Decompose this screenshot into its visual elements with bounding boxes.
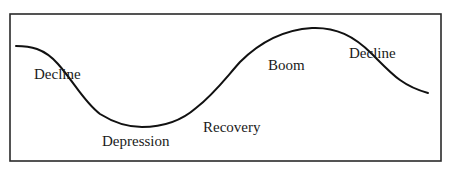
diagram-frame <box>10 14 441 161</box>
label-decline-left: Decline <box>34 67 81 82</box>
label-depression: Depression <box>102 134 170 149</box>
label-decline-right: Decline <box>349 46 396 61</box>
business-cycle-diagram <box>0 0 452 173</box>
label-recovery: Recovery <box>203 120 260 135</box>
label-boom: Boom <box>268 58 305 73</box>
